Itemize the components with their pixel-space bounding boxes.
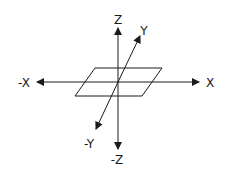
label-x: X <box>206 76 214 90</box>
3d-axes-diagram: Z Y X -X -Y -Z <box>0 0 225 176</box>
label-neg-y: -Y <box>84 137 95 151</box>
label-neg-x: -X <box>18 76 30 90</box>
y-axis-positive <box>118 36 140 82</box>
y-axis-negative <box>96 82 118 129</box>
label-z: Z <box>114 13 122 27</box>
label-neg-z: -Z <box>111 153 124 167</box>
label-y: Y <box>139 24 148 38</box>
